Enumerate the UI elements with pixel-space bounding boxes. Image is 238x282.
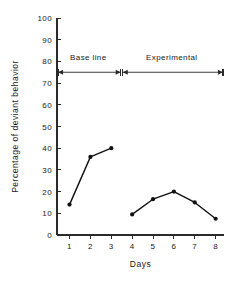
data-point [67,203,71,207]
series-line-experimental [132,192,216,219]
phase-arrowhead-left [58,70,63,75]
phase-label: Experimental [146,53,198,62]
y-tick-label: 10 [42,209,52,218]
data-point [214,217,218,221]
y-tick-label: 0 [47,231,52,240]
phase-label: Base line [70,53,107,62]
figure-container: 0102030405060708090100 12345678 Percenta… [0,0,238,282]
data-series-group [67,146,217,221]
y-axis-title: Percentage of deviant behavior [10,60,20,193]
x-axis-ticks: 12345678 [67,235,218,251]
y-tick-label: 100 [37,14,52,23]
data-point [88,155,92,159]
x-tick-label: 8 [213,242,218,251]
x-tick-label: 5 [151,242,156,251]
x-tick-label: 1 [67,242,72,251]
x-tick-label: 7 [192,242,197,251]
data-point [130,212,134,216]
phase-arrowhead-right [218,70,223,75]
line-chart: 0102030405060708090100 12345678 Percenta… [0,0,238,282]
y-tick-label: 20 [42,188,52,197]
phase-arrowhead-right [116,70,121,75]
y-tick-label: 60 [42,101,52,110]
x-axis-title: Days [130,259,151,269]
data-point [109,146,113,150]
y-tick-label: 40 [42,144,52,153]
y-tick-label: 80 [42,57,52,66]
x-tick-label: 3 [109,242,114,251]
x-axis: 12345678 [57,235,224,251]
y-tick-label: 70 [42,79,52,88]
y-tick-label: 90 [42,36,52,45]
data-point [151,197,155,201]
y-axis: 0102030405060708090100 [37,14,61,240]
y-tick-label: 50 [42,123,52,132]
phase-annotations: Base lineExperimental [58,53,223,75]
data-point [193,200,197,204]
x-tick-label: 6 [171,242,176,251]
data-point [172,190,176,194]
x-tick-label: 4 [130,242,135,251]
phase-arrowhead-left [123,70,128,75]
x-tick-label: 2 [88,242,93,251]
y-tick-label: 30 [42,166,52,175]
